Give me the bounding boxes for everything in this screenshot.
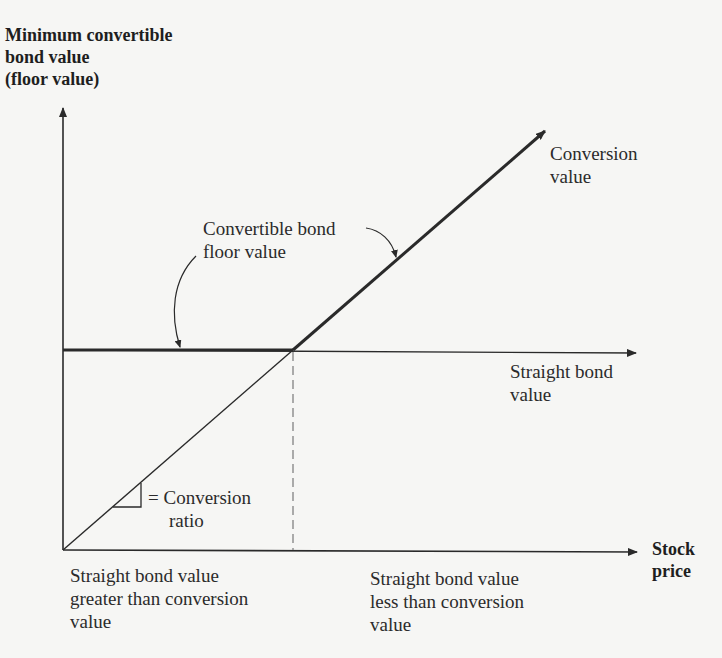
diagram-canvas — [0, 0, 722, 658]
label-line: greater than conversion — [70, 587, 248, 610]
straight-bond-value-label: Straight bond value — [510, 360, 613, 406]
label-line: ratio — [148, 509, 251, 532]
label-line: = Conversion — [148, 486, 251, 509]
label-line: Convertible bond — [203, 217, 335, 240]
left-region-label: Straight bond value greater than convers… — [70, 564, 248, 633]
x-axis — [63, 550, 637, 552]
x-axis-label: Stock price — [652, 538, 695, 582]
right-region-label: Straight bond value less than conversion… — [370, 567, 524, 636]
floor-value-label: Convertible bond floor value — [203, 217, 335, 263]
label-line: floor value — [203, 240, 335, 263]
y-axis-label-line: bond value — [5, 46, 172, 68]
label-line: value — [550, 165, 638, 188]
label-line: Conversion — [550, 142, 638, 165]
conversion-ratio-note: = Conversion ratio — [148, 486, 251, 532]
label-line: less than conversion — [370, 590, 524, 613]
label-line: Straight bond value — [70, 564, 248, 587]
label-line: value — [510, 383, 613, 406]
floor-value-pointer-left — [174, 256, 196, 347]
y-axis-label: Minimum convertible bond value (floor va… — [5, 24, 172, 90]
label-line: Straight bond — [510, 360, 613, 383]
label-line: value — [70, 610, 248, 633]
conversion-value-label: Conversion value — [550, 142, 638, 188]
x-axis-label-line: Stock — [652, 538, 695, 560]
label-line: Straight bond value — [370, 567, 524, 590]
x-axis-label-line: price — [652, 560, 695, 582]
floor-value-pointer-right — [366, 228, 396, 257]
y-axis-label-line: Minimum convertible — [5, 24, 172, 46]
y-axis-label-line: (floor value) — [5, 68, 172, 90]
label-line: value — [370, 613, 524, 636]
